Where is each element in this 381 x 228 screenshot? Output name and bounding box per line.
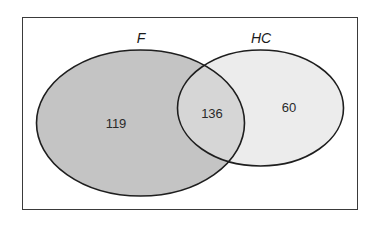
venn-diagram: F HC 119 136 60 [0,0,381,228]
venn-canvas: F HC 119 136 60 [0,0,381,228]
set-f-only-count: 119 [106,116,127,131]
set-hc-only-count: 60 [282,100,296,115]
intersection-count: 136 [201,106,223,121]
set-f-label: F [137,30,147,46]
set-hc-label: HC [251,30,272,46]
